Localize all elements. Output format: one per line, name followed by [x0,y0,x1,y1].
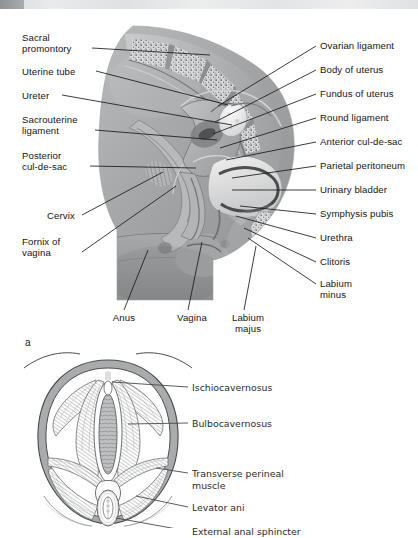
left-thigh-contour [24,353,80,368]
label-body-of-uterus: Body of uterus [320,64,383,75]
page-strip-block [0,0,24,9]
label-anus: Anus [98,312,150,323]
label-levator-ani: Levator ani [192,502,245,514]
figure-a-sagittal-section: Sacral promontoryUterine tubeUreterSacro… [0,10,418,340]
perineum-illustration [18,346,198,528]
label-parietal-peritoneum: Parietal peritoneum [320,160,405,171]
label-urethra: Urethra [320,232,353,243]
label-vagina: Vagina [166,312,218,323]
label-posterior-cul-de-sac: Posterior cul-de-sac [22,150,67,173]
label-cervix: Cervix [47,210,75,221]
right-thigh-contour [136,353,192,368]
vaginal-orifice [99,394,117,474]
label-round-ligament: Round ligament [320,112,389,123]
label-fundus-of-uterus: Fundus of uterus [320,88,394,99]
label-sacrouterine-ligament: Sacrouterine ligament [22,114,78,137]
label-transverse-perineal-muscle: Transverse perineal muscle [192,468,284,491]
label-anterior-cul-de-sac: Anterior cul-de-sac [320,136,402,147]
label-labium-minus: Labium minus [320,278,352,301]
specimen-body [95,24,300,306]
sagittal-section-artwork [95,24,300,306]
label-labium-majus: Labium majus [222,312,274,335]
label-external-anal-sphincter: External anal sphincter [192,526,301,538]
label-ovarian-ligament: Ovarian ligament [320,40,394,51]
sagittal-section-illustration [95,24,300,306]
label-sacral-promontory: Sacral promontory [22,32,72,55]
label-bulbocavernosus: Bulbocavernosus [192,418,272,430]
label-uterine-tube: Uterine tube [22,66,75,77]
perineum-artwork [18,346,198,528]
page-top-strip [0,0,418,9]
label-ureter: Ureter [22,90,49,101]
figure-b-perineum-drawing: IschiocavernosusBulbocavernosusTransvers… [0,346,418,528]
labium-majus [225,256,232,278]
label-clitoris: Clitoris [320,256,350,267]
label-symphysis-pubis: Symphysis pubis [320,208,393,219]
label-urinary-bladder: Urinary bladder [320,184,387,195]
urethral-orifice [104,381,112,395]
label-fornix-of-vagina: Fornix of vagina [22,236,60,259]
label-ischiocavernosus: Ischiocavernosus [192,382,272,394]
